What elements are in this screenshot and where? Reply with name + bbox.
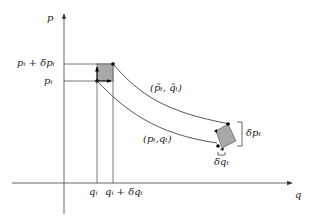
trajectory-upper-label: (p̃ₜ, q̃ₜ) <box>150 83 182 93</box>
phase-space-diagram <box>0 0 310 221</box>
point-start-upper <box>111 62 115 66</box>
delta-q-t-label: δqₜ <box>214 157 229 167</box>
trajectory-lower-label: (pₜ,qₜ) <box>143 134 172 144</box>
delta-p-t-label: δpₜ <box>246 128 261 138</box>
p-axis-label: p <box>47 13 53 23</box>
evolved-region <box>216 124 236 148</box>
arrow-evolved-b <box>220 148 224 151</box>
q-i-plus-label: qᵢ + δqᵢ <box>105 187 143 197</box>
point-upper-end <box>226 122 230 126</box>
p-i-plus-label: pᵢ + δpᵢ <box>17 58 55 68</box>
p-i-label: pᵢ <box>44 76 52 86</box>
trajectory-upper <box>113 64 230 124</box>
point-start-lower <box>95 79 99 83</box>
point-lower-end <box>216 144 220 148</box>
delta-q-t-bracket <box>218 152 225 155</box>
q-i-label: qᵢ <box>89 187 97 197</box>
initial-region <box>97 64 113 81</box>
arrow-evolved-a <box>214 129 217 133</box>
delta-p-t-bracket <box>237 122 242 146</box>
q-axis-label: q <box>295 190 301 200</box>
